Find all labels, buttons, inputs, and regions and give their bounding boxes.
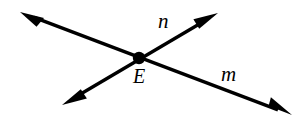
label-line-m: m bbox=[221, 62, 236, 86]
intersecting-lines-figure: n m E bbox=[0, 0, 306, 125]
geometry-diagram-canvas: n m E bbox=[0, 0, 306, 125]
label-line-n: n bbox=[158, 9, 169, 33]
point-e-dot bbox=[133, 52, 145, 64]
label-point-e: E bbox=[132, 65, 145, 87]
